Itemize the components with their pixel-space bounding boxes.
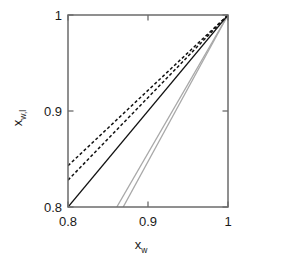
y-tick-label-min: 0.8 [44,200,62,215]
y-tick-label-mid: 0.9 [44,104,62,119]
x-tick-label-min: 0.8 [59,214,77,229]
y-tick-label-max: 1 [55,8,62,23]
x-tick-label-mid: 0.9 [139,214,157,229]
chart-figure: 1 0.9 0.8 0.8 0.9 1 xw xw,l [0,0,283,266]
y-axis-label-sub: w,l [18,110,28,121]
x-axis-label-sub: w [140,245,148,255]
x-tick-label-max: 1 [224,214,231,229]
